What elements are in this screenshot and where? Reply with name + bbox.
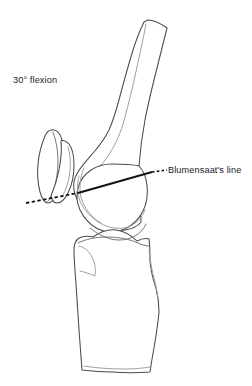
knee-anatomy-drawing (0, 0, 252, 386)
blumensaat-line-label: Blumensaat's line (168, 166, 241, 175)
knee-illustration-figure: 30° flexion Blumensaat's line (0, 0, 252, 386)
flexion-angle-label: 30° flexion (13, 76, 57, 85)
tibia-group (74, 230, 159, 373)
tibia-outline (74, 230, 159, 373)
blumensaat-line-dotted-right (152, 170, 167, 172)
patella-group (38, 130, 74, 203)
femoral-condyle-group (77, 164, 147, 232)
